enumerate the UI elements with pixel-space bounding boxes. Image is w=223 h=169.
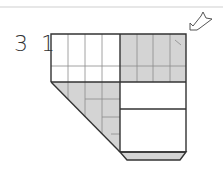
- origami-diagram: [0, 0, 223, 169]
- push-arrow-icon: [190, 12, 212, 30]
- shaded-bottom-flap: [120, 152, 186, 160]
